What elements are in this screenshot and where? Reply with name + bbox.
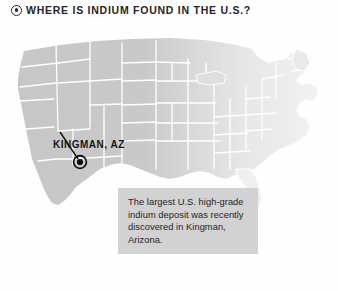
- infographic-panel: WHERE IS INDIUM FOUND IN THE U.S.?: [0, 0, 338, 291]
- callout-box: The largest U.S. high-grade indium depos…: [118, 188, 258, 254]
- page-title-text: WHERE IS INDIUM FOUND IN THE U.S.?: [26, 4, 251, 16]
- map-landmass: [18, 38, 318, 209]
- marker-label: KINGMAN, AZ: [53, 139, 125, 150]
- page-title: WHERE IS INDIUM FOUND IN THE U.S.?: [11, 4, 251, 16]
- circled-dot-icon: [11, 5, 22, 16]
- callout-text: The largest U.S. high-grade indium depos…: [128, 196, 249, 246]
